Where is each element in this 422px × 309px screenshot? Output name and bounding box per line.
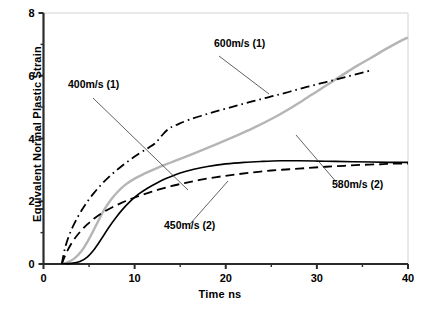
series-annotation-label: 580m/s (2)	[332, 178, 383, 190]
annotation-leader-line	[190, 181, 228, 224]
x-tick-label: 10	[129, 272, 141, 284]
series-annotation-label: 400m/s (1)	[68, 78, 119, 90]
y-tick-label: 0	[28, 258, 34, 270]
x-tick-label: 20	[220, 272, 232, 284]
series-line	[62, 37, 408, 264]
series-line	[62, 161, 408, 264]
chart-figure: 02468010203040600m/s (1)400m/s (1)450m/s…	[0, 0, 422, 309]
x-tick-label: 30	[311, 272, 323, 284]
plot-canvas: 02468010203040600m/s (1)400m/s (1)450m/s…	[0, 0, 422, 309]
series-annotation-label: 600m/s (1)	[214, 37, 265, 49]
series-annotation-label: 450m/s (2)	[164, 219, 215, 231]
y-axis-title: Equivalent Normal Plastic Strain	[31, 19, 43, 249]
y-tick-label: 8	[28, 7, 34, 19]
x-axis-title: Time ns	[160, 288, 280, 300]
x-tick-label: 0	[40, 272, 46, 284]
annotation-leader-line	[219, 56, 269, 94]
x-tick-label: 40	[402, 272, 414, 284]
annotation-leader-line	[296, 135, 338, 184]
